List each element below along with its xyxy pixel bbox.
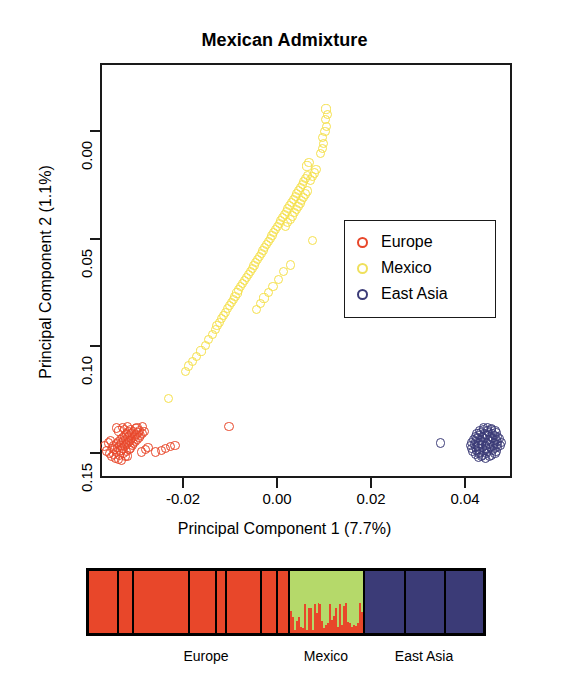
pca-point-mexico: [164, 394, 173, 403]
admixture-segment: [481, 571, 483, 633]
pca-plot-area: Europe Mexico East Asia: [100, 63, 512, 478]
x-tick-label-1: 0.00: [242, 490, 312, 507]
admixture-label-eastasia: East Asia: [364, 648, 484, 664]
legend-item-east-asia: East Asia: [357, 281, 495, 307]
pca-legend: Europe Mexico East Asia: [344, 220, 496, 318]
pca-point-europe: [138, 422, 147, 431]
x-tick-2: [370, 478, 372, 488]
pca-point-mexico: [304, 158, 313, 167]
y-tick-label-1: 0.05: [78, 240, 95, 288]
x-tick-0: [182, 478, 184, 488]
pca-point-east-asia: [487, 424, 496, 433]
admixture-group-separator: [225, 571, 227, 633]
figure-mexican-admixture: Mexican Admixture Europe Mexico East Asi…: [0, 0, 569, 696]
y-tick-label-3: 0.15: [78, 454, 95, 502]
pca-point-mexico: [303, 186, 312, 195]
x-tick-3: [464, 478, 466, 488]
legend-label-europe: Europe: [381, 234, 433, 250]
x-tick-label-0: -0.02: [148, 490, 218, 507]
pca-point-east-asia: [436, 438, 445, 447]
y-tick-label-0: 0.00: [78, 132, 95, 180]
legend-item-mexico: Mexico: [357, 255, 495, 281]
admixture-barplot: [86, 568, 486, 636]
x-tick-label-2: 0.02: [336, 490, 406, 507]
legend-marker-europe: [357, 237, 368, 248]
admixture-group-separator: [132, 571, 134, 633]
admixture-group-separator: [404, 571, 406, 633]
pca-point-mexico: [321, 104, 330, 113]
admixture-group-separator: [188, 571, 190, 633]
admixture-group-separator: [363, 571, 365, 633]
admixture-group-separator: [117, 571, 119, 633]
legend-label-mexico: Mexico: [381, 260, 432, 276]
admixture-individual-bar: [481, 571, 483, 633]
y-tick-label-2: 0.10: [78, 347, 95, 395]
pca-point-mexico: [252, 305, 261, 314]
legend-marker-east-asia: [357, 289, 368, 300]
figure-title: Mexican Admixture: [0, 30, 569, 51]
legend-marker-mexico: [357, 263, 368, 274]
admixture-label-europe: Europe: [146, 648, 266, 664]
admixture-group-separator: [215, 571, 217, 633]
pca-point-europe: [106, 436, 115, 445]
admixture-group-separator: [288, 571, 290, 633]
admixture-group-separator: [260, 571, 262, 633]
x-tick-1: [276, 478, 278, 488]
legend-label-east-asia: East Asia: [381, 286, 448, 302]
pca-point-europe: [170, 441, 179, 450]
pca-point-europe: [224, 422, 233, 431]
legend-item-europe: Europe: [357, 229, 495, 255]
admixture-group-labels: Europe Mexico East Asia: [86, 648, 486, 670]
pca-point-mexico: [308, 236, 317, 245]
pca-point-europe: [123, 422, 132, 431]
x-tick-label-3: 0.04: [430, 490, 500, 507]
admixture-group-separator: [444, 571, 446, 633]
pca-point-mexico: [311, 165, 320, 174]
x-axis-title: Principal Component 1 (7.7%): [0, 520, 569, 538]
y-axis-title: Principal Component 2 (1.1%): [37, 122, 55, 422]
admixture-group-separator: [276, 571, 278, 633]
